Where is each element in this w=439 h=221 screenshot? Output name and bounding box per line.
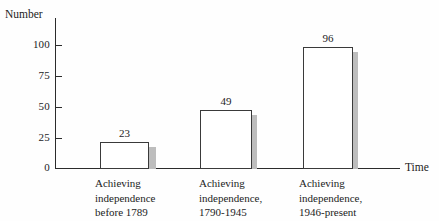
y-tick-mark-50 (55, 107, 62, 108)
y-tick-label-25: 25 (0, 132, 55, 143)
y-axis-title: Number (5, 8, 43, 21)
y-tick-75: 75 (0, 76, 55, 77)
bar-3 (303, 47, 353, 169)
category-label-1-line-3: before 1789 (95, 205, 155, 220)
category-label-3-line-1: Achieving (299, 176, 362, 191)
y-tick-mark-75 (55, 76, 62, 77)
bar-chart: Number 100 75 50 25 0 23 49 96 Achieving… (0, 0, 439, 221)
y-tick-50: 50 (0, 107, 55, 108)
category-label-3-line-3: 1946-present (299, 205, 362, 220)
bar-value-2: 49 (200, 96, 252, 107)
bar-2 (200, 110, 252, 169)
bar-1 (100, 142, 149, 169)
y-tick-0: 0 (0, 168, 55, 169)
y-tick-label-0: 0 (0, 162, 55, 173)
y-tick-mark-25 (55, 138, 62, 139)
category-label-2-line-1: Achieving (199, 176, 262, 191)
y-tick-label-100: 100 (0, 39, 55, 50)
y-tick-mark-100 (55, 45, 62, 46)
y-tick-25: 25 (0, 138, 55, 139)
y-tick-100: 100 (0, 45, 55, 46)
category-label-1: Achieving independence before 1789 (95, 176, 155, 220)
y-axis-line (55, 18, 56, 168)
category-label-2-line-2: independence, (199, 191, 262, 206)
bar-value-1: 23 (100, 128, 149, 139)
category-label-2-line-3: 1790-1945 (199, 205, 262, 220)
y-tick-label-50: 50 (0, 101, 55, 112)
category-label-3-line-2: independence, (299, 191, 362, 206)
category-label-1-line-2: independence (95, 191, 155, 206)
x-axis-title: Time (405, 161, 429, 174)
category-label-3: Achieving independence, 1946-present (299, 176, 362, 220)
category-label-1-line-1: Achieving (95, 176, 155, 191)
category-label-2: Achieving independence, 1790-1945 (199, 176, 262, 220)
y-tick-label-75: 75 (0, 70, 55, 81)
bar-value-3: 96 (303, 33, 353, 44)
